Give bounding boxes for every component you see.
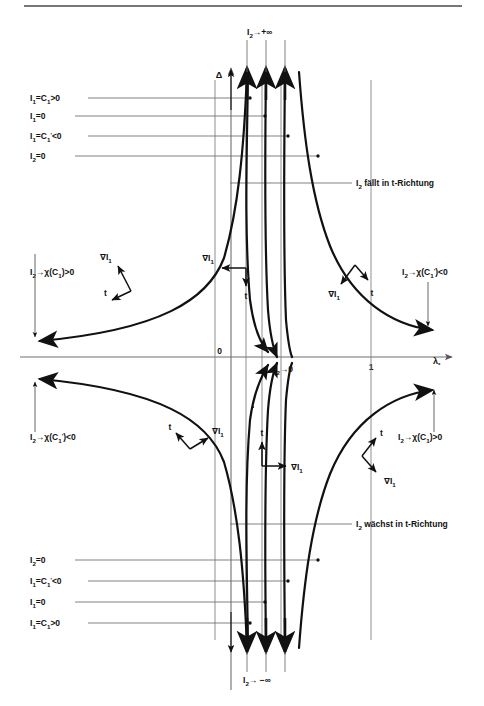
vectors-lower-right: t ∇I1 xyxy=(362,428,396,488)
axis-label-lambda: λ* xyxy=(433,356,441,368)
curve-upper-left xyxy=(40,72,247,341)
vector-label-t-upper-left: t xyxy=(104,288,107,298)
label-i1-c1-gt0-bottom: I1=C1>0 xyxy=(30,618,60,630)
guide-lines-bottom xyxy=(75,524,352,623)
leader-lines-top xyxy=(247,40,285,72)
tangent-arrow-lower-left xyxy=(176,433,190,449)
dot-top-1 xyxy=(248,96,251,99)
vectors-upper-left: ∇I1 t xyxy=(100,252,131,300)
tangent-arrow-lower-right xyxy=(362,438,376,456)
label-i2-faellt: I2 fällt in t-Richtung xyxy=(356,178,434,190)
dot-bot-4 xyxy=(248,621,251,624)
axis-label-delta: Δ xyxy=(216,70,223,80)
figure-container: Δ λ* 0 1 I1=C1>0 I1=0 I1=C1'<0 I2=0 I2 f… xyxy=(0,0,484,706)
vector-label-t-lower-right: t xyxy=(380,428,383,438)
label-limit-lower-right: I2→χ(C1)>0 xyxy=(398,432,442,444)
label-i2-eq0-top: I2=0 xyxy=(30,151,46,163)
label-i2-waechst: I2 wächst in t-Richtung xyxy=(356,519,448,531)
vertical-reference-lines xyxy=(215,80,371,640)
grad-arrow-upper-right xyxy=(341,265,355,284)
label-i1-c1p-lt0-bottom: I1=C1'<0 xyxy=(30,576,62,588)
integral-curves-upper xyxy=(40,72,432,357)
dot-bot-1 xyxy=(316,558,319,561)
vector-label-grad-upper-right: ∇I1 xyxy=(328,289,340,301)
tangent-arrow-upper-left xyxy=(112,291,131,300)
curve-lower-b xyxy=(265,363,277,648)
grad-arrow-lower-right xyxy=(362,456,376,472)
curve-lower-left xyxy=(40,379,247,648)
vector-label-t-lower-left: t xyxy=(169,422,172,432)
label-i2-eq0-bottom: I2=0 xyxy=(30,555,46,567)
curve-upper-c xyxy=(284,72,292,357)
vector-label-t-lower-center: t xyxy=(261,428,264,438)
asymptote-arrows-bottom xyxy=(231,612,285,652)
dot-top-4 xyxy=(316,154,319,157)
label-limit-upper-left: I2→χ(C1)>0 xyxy=(30,267,74,279)
dot-bot-2 xyxy=(286,579,289,582)
phase-plane-diagram: Δ λ* 0 1 I1=C1>0 I1=0 I1=C1'<0 I2=0 I2 f… xyxy=(0,0,484,706)
tangent-arrow-upper-right xyxy=(355,265,368,280)
asymptote-arrows-top xyxy=(231,68,285,110)
grad-arrow-lower-left xyxy=(190,438,208,449)
vector-label-grad-lower-center: ∇I1 xyxy=(291,462,303,474)
vector-label-grad-upper-left: ∇I1 xyxy=(100,252,112,264)
label-i1-eq0-bottom: I1=0 xyxy=(30,597,46,609)
curve-upper-b xyxy=(265,72,277,357)
integral-curves-lower xyxy=(40,363,432,648)
label-i2-minus-infinity: I2→ −∞ xyxy=(243,675,271,687)
label-i1-c1p-lt0-top: I1=C1'<0 xyxy=(30,131,62,143)
grad-arrow-upper-left xyxy=(118,266,131,291)
vector-label-grad-upper-center: ∇I1 xyxy=(202,253,214,265)
label-i2-plus-infinity: I2→+∞ xyxy=(247,27,272,39)
dot-top-3 xyxy=(286,134,289,137)
label-i1-c1-gt0-top: I1=C1>0 xyxy=(30,93,60,105)
vector-label-t-upper-center: t xyxy=(245,291,248,301)
vector-label-t-upper-right: t xyxy=(371,288,374,298)
stray-dot xyxy=(252,406,254,408)
tick-origin: 0 xyxy=(217,346,222,356)
curve-lower-c xyxy=(284,363,292,648)
curve-upper-right xyxy=(299,72,432,330)
label-limit-lower-left: I2→χ(C1')<0 xyxy=(30,432,76,444)
vectors-upper-center: ∇I1 t xyxy=(202,253,247,301)
label-i1-eq0-top: I1=0 xyxy=(30,111,46,123)
vector-label-grad-lower-left: ∇I1 xyxy=(212,426,224,438)
leader-lines-bottom xyxy=(247,652,285,672)
vector-label-grad-lower-right: ∇I1 xyxy=(384,476,396,488)
label-limit-upper-right: I2→χ(C1')<0 xyxy=(402,267,448,279)
